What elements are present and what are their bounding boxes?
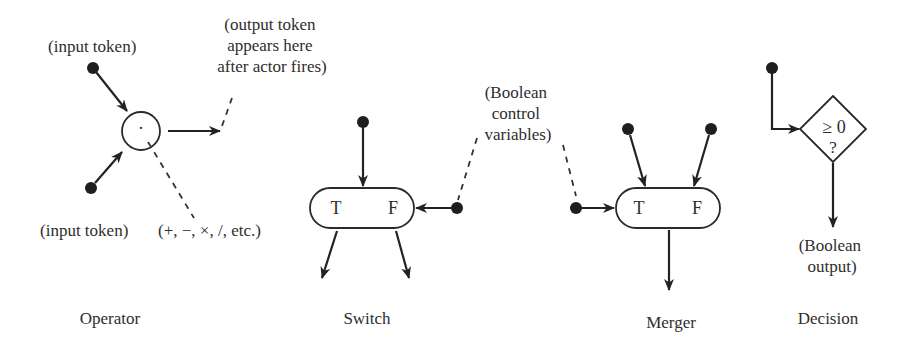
merger-actor: T F Merger xyxy=(570,123,720,332)
decision-question: ? xyxy=(829,138,837,157)
input-arrow xyxy=(772,73,799,129)
input-token-icon xyxy=(766,62,778,74)
switch-actor: T F Switch xyxy=(310,116,463,328)
operator-input-label-bottom: (input token) xyxy=(40,221,128,240)
control-token-icon xyxy=(570,202,582,214)
control-leader-left xyxy=(458,138,477,200)
true-input-arrow xyxy=(630,135,645,186)
input-token-icon xyxy=(705,123,717,135)
operator-actor: (input token) · (output token appears he… xyxy=(40,15,327,328)
svg-text:(Boolean control v: (Boolean control variables) xyxy=(484,83,551,144)
switch-true-label: T xyxy=(331,198,342,218)
true-output-arrow xyxy=(322,231,337,278)
caption-operator: Operator xyxy=(80,309,141,328)
caption-decision: Decision xyxy=(798,309,859,328)
false-output-arrow xyxy=(396,231,409,278)
input-arrow xyxy=(96,72,127,111)
output-note-leader xyxy=(222,98,232,126)
false-input-arrow xyxy=(694,135,709,186)
input-arrow xyxy=(95,152,122,183)
operator-symbol: · xyxy=(138,118,144,138)
input-token-icon xyxy=(85,182,97,194)
input-token-icon xyxy=(622,123,634,135)
output-note: (output token appears here after actor f… xyxy=(217,15,326,76)
op-symbol-leader xyxy=(148,142,194,218)
control-variables-note: (Boolean control variables) xyxy=(458,83,576,200)
caption-switch: Switch xyxy=(343,309,391,328)
control-token-icon xyxy=(451,202,463,214)
operator-symbols-note: (+, −, ×, /, etc.) xyxy=(158,221,261,240)
decision-actor: ≥ 0 ? (Boolean output) Decision xyxy=(766,62,866,328)
switch-false-label: F xyxy=(388,198,398,218)
switch-node xyxy=(310,188,414,228)
merger-false-label: F xyxy=(692,198,702,218)
dataflow-diagram: (input token) · (output token appears he… xyxy=(0,0,908,358)
merger-node xyxy=(616,188,720,228)
control-leader-right xyxy=(563,145,576,196)
operator-input-label-top: (input token) xyxy=(48,37,136,56)
merger-true-label: T xyxy=(634,198,645,218)
decision-output-note: (Boolean output) xyxy=(799,236,866,276)
decision-condition: ≥ 0 xyxy=(822,117,845,137)
caption-merger: Merger xyxy=(646,313,696,332)
input-token-icon xyxy=(357,116,369,128)
